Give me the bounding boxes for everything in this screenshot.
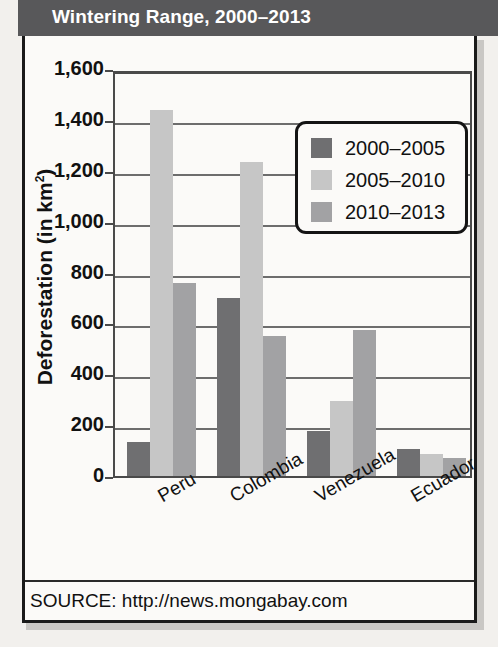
y-axis-tick-label: 1,600 (14, 57, 104, 80)
bar (397, 449, 420, 476)
chart-figure: Wintering Range, 2000–2013 Deforestation… (0, 0, 498, 647)
bar (307, 431, 330, 476)
legend-item: 2005–2010 (311, 167, 445, 193)
y-axis-tick-label: 400 (14, 362, 104, 385)
y-axis-tick-mark (105, 426, 113, 428)
legend-swatch (311, 170, 332, 190)
legend-label: 2010–2013 (345, 201, 445, 224)
y-axis-tick-mark (105, 274, 113, 276)
y-axis-tick-mark (105, 477, 113, 479)
y-axis-tick-label: 1,000 (14, 210, 104, 233)
y-axis-tick-label: 0 (14, 464, 104, 487)
y-axis-tick-mark (105, 324, 113, 326)
y-axis-tick-label: 1,400 (14, 108, 104, 131)
y-axis-tick-label: 1,200 (14, 159, 104, 182)
legend-swatch (311, 202, 332, 222)
y-axis-tick-mark (105, 121, 113, 123)
legend-swatch (311, 138, 332, 158)
chart-legend: 2000–20052005–20102010–2013 (295, 121, 468, 234)
y-axis-tick-mark (105, 70, 113, 72)
bar (173, 283, 196, 476)
y-axis-tick-label: 200 (14, 413, 104, 436)
source-label: SOURCE: http://news.mongabay.com (30, 590, 348, 612)
chart-plot-region: Deforestation (in km2) 1,6001,4001,2001,… (0, 0, 498, 647)
y-axis-tick-label: 800 (14, 261, 104, 284)
bar (150, 110, 173, 476)
y-axis-tick-mark (105, 375, 113, 377)
legend-label: 2000–2005 (345, 137, 445, 160)
bar (217, 298, 240, 476)
source-divider (25, 580, 474, 582)
bar (240, 162, 263, 476)
y-axis-tick-mark (105, 223, 113, 225)
y-axis-tick-mark (105, 172, 113, 174)
legend-item: 2010–2013 (311, 199, 445, 225)
gridline (115, 72, 470, 74)
y-axis-tick-label: 600 (14, 311, 104, 334)
bar (127, 442, 150, 476)
legend-label: 2005–2010 (345, 169, 445, 192)
legend-item: 2000–2005 (311, 135, 445, 161)
